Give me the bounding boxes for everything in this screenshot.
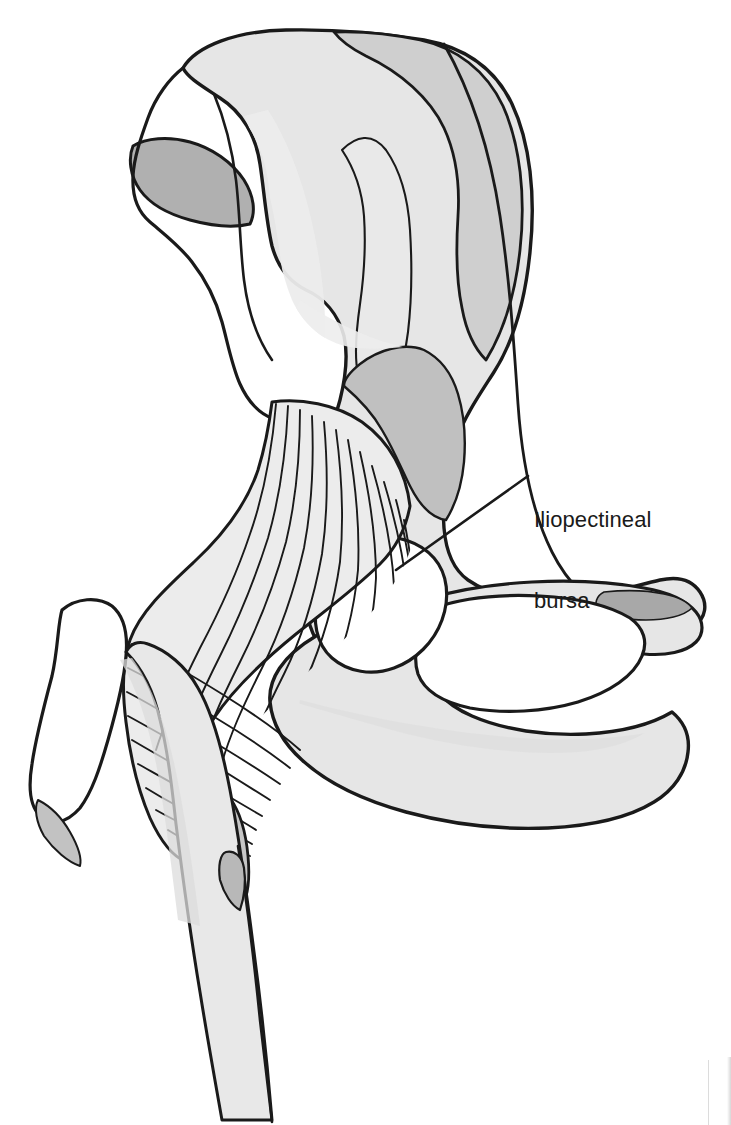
figure-page: Iliopectineal bursa [0, 0, 731, 1125]
iliopectineal-bursa-label: Iliopectineal bursa [534, 452, 652, 668]
scan-page-edge-line [708, 1060, 709, 1125]
iliopectineal-bursa-label-line-1: Iliopectineal [534, 506, 652, 533]
anterior-superior-iliac-spine [130, 139, 253, 227]
iliopectineal-bursa-label-line-2: bursa [534, 587, 652, 614]
scan-page-edge [727, 1057, 731, 1125]
